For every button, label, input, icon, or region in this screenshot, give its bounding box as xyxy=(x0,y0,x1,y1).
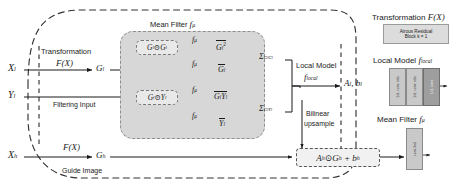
fmu-label-2: fμ xyxy=(192,60,197,68)
legend-local-model-title: Local Model flocal xyxy=(373,55,432,65)
legend-atrous-residual-block: Atrous Residual Block k = 1 xyxy=(383,24,449,44)
out-gy-mean: GlYl xyxy=(214,91,227,101)
transformation-fn-2: F(X) xyxy=(63,143,80,152)
local-model-symbol: flocal xyxy=(304,73,318,82)
transformation-fn-1: F(X) xyxy=(56,59,73,68)
bilinear-upsample-line2: upsample xyxy=(304,120,334,127)
input-x-high: Xh xyxy=(8,150,17,160)
filtering-input-label: Filtering Input xyxy=(53,101,95,108)
fmu-label-1: fμ xyxy=(192,36,197,44)
legend-local-bar-1-label: 1x1 conv, relu xyxy=(396,76,400,98)
fmu-label-4: fμ xyxy=(192,112,197,120)
out-g-squared-mean: Gl2 xyxy=(216,40,226,51)
input-x-low: Xl xyxy=(8,63,16,73)
g-low-label: Gl xyxy=(96,64,104,73)
legend-local-bar-2-label: 1x1 conv, relu xyxy=(413,76,417,98)
bilinear-upsample-line1: Bilinear xyxy=(306,110,329,117)
sigma-gy: ΣGlYl xyxy=(259,105,272,113)
local-model-outputs: Al, bl xyxy=(344,79,362,88)
legend-mean-filter-bar: conv 3x3 xyxy=(406,128,423,170)
out-y-mean: Yl xyxy=(219,118,225,128)
diagram-canvas: Mean Filter fμ Gl⊙Gl Gl⊙Yl fμ fμ fμ fμ G… xyxy=(0,0,467,188)
g-high-label: Gh xyxy=(96,151,105,160)
output-expression-box: Ah⊙Gh + bh xyxy=(296,148,380,167)
input-y-low: Yl xyxy=(8,90,15,100)
atrous-block-line2: Block k = 1 xyxy=(405,34,428,39)
legend-local-bar-3-label: 1x1 conv xyxy=(430,80,434,94)
transformation-label: Transformation xyxy=(41,48,91,56)
sigma-gg: ΣGlGl xyxy=(259,53,273,61)
legend-local-bar-2: 1x1 conv, relu xyxy=(406,68,423,106)
op-box-gy-corr: Gl⊙Yl xyxy=(136,90,178,105)
legend-mean-filter-title: Mean Filter fμ xyxy=(377,114,425,124)
mean-filter-title: Mean Filter fμ xyxy=(150,20,195,29)
fmu-label-3: fμ xyxy=(192,86,197,94)
legend-local-bar-1: 1x1 conv, relu xyxy=(389,68,406,106)
out-g-mean: Gl xyxy=(218,64,225,74)
legend-mean-filter-bar-label: conv 3x3 xyxy=(413,142,417,156)
guide-image-label: Guide Image xyxy=(62,167,102,174)
legend-local-bar-3: 1x1 conv xyxy=(423,68,440,106)
local-model-label: Local Model xyxy=(296,62,336,70)
legend-transformation-title: Transformation F(X) xyxy=(372,12,445,22)
op-box-g-corr: Gl⊙Gl xyxy=(136,40,178,55)
